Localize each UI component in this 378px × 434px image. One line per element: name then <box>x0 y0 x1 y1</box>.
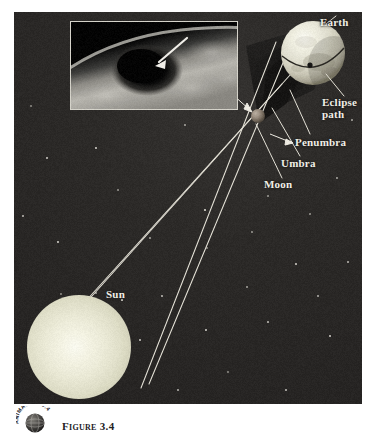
inset-photo-content <box>71 22 237 109</box>
sun-sphere <box>27 295 131 399</box>
label-sun: Sun <box>106 288 125 300</box>
space-scene-panel: Earth Eclipse path Penumbra Umbra Moon S… <box>14 12 362 404</box>
inset-satellite-photo <box>70 21 238 110</box>
label-eclipse-path: Eclipse path <box>322 96 357 120</box>
umbra-contact-point <box>307 62 312 67</box>
leader-umbra <box>272 108 300 156</box>
figure-caption: Figure 3.4 <box>62 420 362 434</box>
label-moon: Moon <box>264 178 292 190</box>
label-umbra: Umbra <box>281 157 316 169</box>
figure-number: Figure 3.4 <box>62 420 114 432</box>
figure-root: Earth Eclipse path Penumbra Umbra Moon S… <box>0 0 378 434</box>
leader-penumbra <box>290 90 310 134</box>
leader-eclipse-path <box>326 74 344 96</box>
label-earth: Earth <box>320 16 349 28</box>
leader-moon <box>256 124 282 178</box>
label-penumbra: Penumbra <box>295 136 346 148</box>
animation-badge-icon[interactable]: ANIMATION 3.4 <box>16 406 56 434</box>
arrow-to-umbra-head <box>285 139 293 145</box>
animation-badge[interactable]: ANIMATION 3.4 <box>16 406 56 434</box>
moon-sphere <box>251 109 265 123</box>
light-ray-2 <box>58 84 282 334</box>
